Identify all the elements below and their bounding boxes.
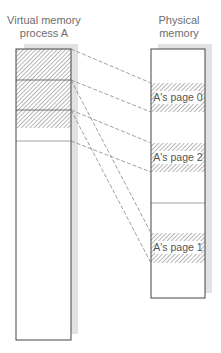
mapping-page-0-bottom [71, 80, 151, 112]
mapping-page-0-top [71, 49, 151, 83]
mapping-page-1-bottom [71, 110, 151, 263]
virtual-page-2 [16, 110, 71, 128]
label-a-page-2: A's page 2 [153, 151, 202, 163]
virtual-page-0 [16, 49, 71, 80]
memory-mapping-diagram: A's page 0 A's page 2 A's page 1 [0, 0, 221, 353]
physical-memory-box [151, 49, 205, 298]
virtual-page-1 [16, 80, 71, 110]
mapping-page-2-top [71, 110, 151, 143]
label-a-page-1: A's page 1 [153, 241, 202, 253]
mapping-page-1-top [71, 80, 151, 233]
virtual-memory-box [16, 49, 71, 340]
label-a-page-0: A's page 0 [153, 91, 202, 103]
